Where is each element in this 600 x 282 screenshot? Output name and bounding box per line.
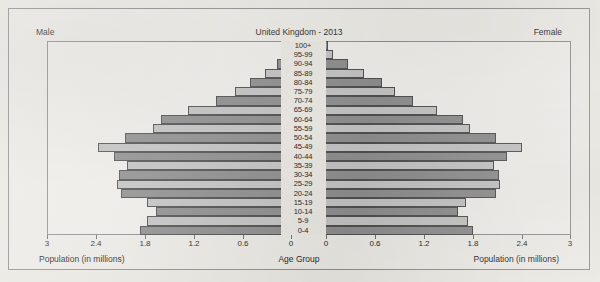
bar-row [326, 207, 571, 216]
bar-male-20-24 [121, 189, 293, 198]
bar-row [326, 133, 571, 142]
tick-label-1.2: 1.2 [188, 239, 199, 248]
bar-male-95-99 [287, 50, 292, 59]
bar-male-45-49 [98, 143, 292, 152]
bar-row [47, 143, 292, 152]
bar-row [47, 152, 292, 161]
bar-female-55-59 [326, 124, 470, 133]
bar-row [326, 198, 571, 207]
bar-male-90-94 [277, 59, 292, 68]
male-population-axis: 32.41.81.20.60 [47, 235, 292, 253]
tick-label-1.8: 1.8 [467, 239, 478, 248]
tick-label-3: 3 [568, 239, 572, 248]
bar-male-5-9 [147, 216, 292, 225]
population-axis: 32.41.81.20.60 00.61.21.82.43 [47, 235, 571, 253]
tick-label-1.2: 1.2 [418, 239, 429, 248]
bar-male-75-79 [235, 87, 292, 96]
bar-row [47, 161, 292, 170]
bar-row [326, 50, 571, 59]
bar-male-15-19 [147, 198, 292, 207]
bar-row [326, 152, 571, 161]
bar-male-50-54 [125, 133, 292, 142]
female-axis-caption: Population (in millions) [473, 254, 559, 264]
bar-row [47, 59, 292, 68]
bar-male-0-4 [140, 226, 292, 235]
bar-row [326, 115, 571, 124]
bar-row [47, 41, 292, 50]
bar-row [47, 87, 292, 96]
bar-row [326, 170, 571, 179]
tick-label-2.4: 2.4 [90, 239, 101, 248]
bar-row [326, 143, 571, 152]
female-bar-group [326, 41, 571, 235]
tick-label-0.6: 0.6 [237, 239, 248, 248]
bar-female-60-64 [326, 115, 463, 124]
bar-row [47, 170, 292, 179]
bar-female-0-4 [326, 226, 473, 235]
bar-female-100plus [326, 41, 328, 50]
tick-label-1.8: 1.8 [139, 239, 150, 248]
bar-female-20-24 [326, 189, 496, 198]
plot-area [47, 41, 571, 235]
bar-female-75-79 [326, 87, 395, 96]
bar-male-60-64 [161, 115, 292, 124]
bar-row [326, 41, 571, 50]
bar-male-25-29 [117, 180, 292, 189]
bar-row [47, 180, 292, 189]
tick-label-0: 0 [324, 239, 328, 248]
bar-row [47, 115, 292, 124]
bar-female-40-44 [326, 152, 507, 161]
bar-male-85-89 [265, 69, 292, 78]
bar-row [47, 198, 292, 207]
bar-row [47, 106, 292, 115]
bar-female-85-89 [326, 69, 364, 78]
bar-row [326, 69, 571, 78]
male-bar-group [47, 41, 292, 235]
bar-row [326, 124, 571, 133]
tick-label-0.6: 0.6 [369, 239, 380, 248]
bar-male-65-69 [188, 106, 292, 115]
bar-row [47, 96, 292, 105]
bar-row [326, 216, 571, 225]
bar-row [47, 216, 292, 225]
bar-male-10-14 [156, 207, 292, 216]
bar-female-10-14 [326, 207, 458, 216]
bar-row [47, 207, 292, 216]
tick-label-3: 3 [45, 239, 49, 248]
bar-row [47, 226, 292, 235]
female-population-axis: 00.61.21.82.43 [326, 235, 571, 253]
bar-row [326, 78, 571, 87]
bar-row [326, 59, 571, 68]
bar-female-25-29 [326, 180, 500, 189]
bar-female-70-74 [326, 96, 413, 105]
bar-male-35-39 [127, 161, 292, 170]
bar-row [47, 133, 292, 142]
tick-label-0: 0 [289, 239, 293, 248]
bar-row [47, 50, 292, 59]
bar-female-90-94 [326, 59, 348, 68]
figure-frame: Male Female United Kingdom - 2013 100+95… [8, 8, 590, 270]
bar-row [326, 180, 571, 189]
bar-female-65-69 [326, 106, 437, 115]
bar-row [326, 189, 571, 198]
bar-female-45-49 [326, 143, 522, 152]
bar-male-70-74 [216, 96, 292, 105]
bar-female-80-84 [326, 78, 382, 87]
bar-female-50-54 [326, 133, 496, 142]
bar-row [47, 69, 292, 78]
bar-row [47, 78, 292, 87]
bar-female-95-99 [326, 50, 333, 59]
bar-row [326, 161, 571, 170]
bar-male-100plus [291, 41, 292, 50]
bar-row [326, 226, 571, 235]
bar-male-55-59 [153, 124, 292, 133]
bar-male-40-44 [114, 152, 292, 161]
chart-title: United Kingdom - 2013 [9, 27, 589, 37]
tick-label-2.4: 2.4 [516, 239, 527, 248]
bar-row [326, 106, 571, 115]
bar-row [326, 96, 571, 105]
bar-male-30-34 [119, 170, 292, 179]
bar-row [326, 87, 571, 96]
bar-row [47, 189, 292, 198]
bar-female-30-34 [326, 170, 499, 179]
